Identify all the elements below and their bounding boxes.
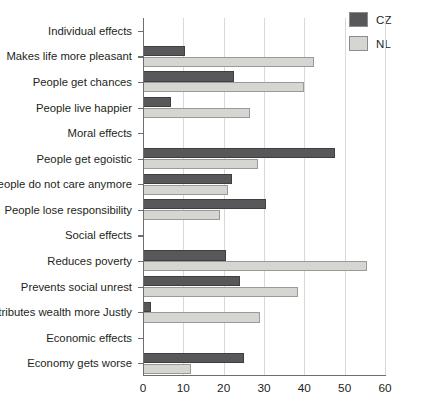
y-axis-label: People get chances xyxy=(33,76,132,88)
y-axis-tick xyxy=(138,287,143,288)
y-axis-label: Makes life more pleasant xyxy=(6,50,132,62)
y-axis-tick xyxy=(138,363,143,364)
x-axis-tick-label: 40 xyxy=(298,381,311,395)
bar-cz xyxy=(143,199,266,209)
gridline-40 xyxy=(304,18,305,376)
bar-nl xyxy=(143,159,258,169)
y-axis-label: Reduces poverty xyxy=(47,255,132,267)
bar-cz xyxy=(143,353,244,363)
bar-nl xyxy=(143,57,314,67)
x-axis-line xyxy=(143,375,386,376)
bar-cz xyxy=(143,174,232,184)
bar-nl xyxy=(143,261,367,271)
y-axis-label: People lose responsibility xyxy=(5,204,132,216)
y-axis-tick xyxy=(138,235,143,236)
bar-nl xyxy=(143,185,228,195)
x-axis-tick-label: 20 xyxy=(217,381,230,395)
gridline-50 xyxy=(345,18,346,376)
gridline-60 xyxy=(385,18,386,376)
bar-nl xyxy=(143,210,220,220)
bar-cz xyxy=(143,148,335,158)
gridline-30 xyxy=(264,18,265,376)
y-axis-tick xyxy=(138,31,143,32)
y-axis-line xyxy=(143,18,144,376)
y-axis-tick xyxy=(138,108,143,109)
x-axis-tick-label: 0 xyxy=(140,381,147,395)
x-axis-tick-label: 10 xyxy=(177,381,190,395)
y-axis-label: Economy gets worse xyxy=(27,357,132,369)
y-axis-tick xyxy=(138,133,143,134)
y-axis-label: Social effects xyxy=(65,229,132,241)
bar-nl xyxy=(143,312,260,322)
bar-nl xyxy=(143,364,191,374)
y-axis-label: Prevents social unrest xyxy=(21,281,132,293)
y-axis-tick xyxy=(138,210,143,211)
y-axis-label: People get egoistic xyxy=(37,153,132,165)
y-axis-tick xyxy=(138,261,143,262)
y-axis-tick xyxy=(138,338,143,339)
bar-nl xyxy=(143,287,298,297)
bar-cz xyxy=(143,71,234,81)
y-axis-tick xyxy=(138,56,143,57)
y-axis-label: Distributes wealth more Justly xyxy=(0,306,132,318)
x-axis-labels: 0102030405060 xyxy=(143,381,386,401)
bar-nl xyxy=(143,82,304,92)
bar-chart: CZ NL Individual effectsMakes life more … xyxy=(0,0,427,414)
bar-nl xyxy=(143,108,250,118)
bar-cz xyxy=(143,46,185,56)
x-axis-tick-label: 50 xyxy=(338,381,351,395)
y-axis-tick xyxy=(138,159,143,160)
bar-cz xyxy=(143,276,240,286)
y-axis-label: People live happier xyxy=(36,102,132,114)
y-axis-tick xyxy=(138,82,143,83)
y-axis-labels: Individual effectsMakes life more pleasa… xyxy=(0,18,138,376)
y-axis-label: Economic effects xyxy=(46,332,132,344)
x-axis-tick-label: 30 xyxy=(257,381,270,395)
y-axis-label: Moral effects xyxy=(68,127,132,139)
plot-area xyxy=(143,18,385,376)
bar-cz xyxy=(143,97,171,107)
y-axis-label: Individual effects xyxy=(48,25,132,37)
y-axis-tick xyxy=(138,184,143,185)
bar-cz xyxy=(143,250,226,260)
y-axis-label: People do not care anymore xyxy=(0,178,132,190)
x-axis-tick-label: 60 xyxy=(378,381,391,395)
y-axis-tick xyxy=(138,312,143,313)
